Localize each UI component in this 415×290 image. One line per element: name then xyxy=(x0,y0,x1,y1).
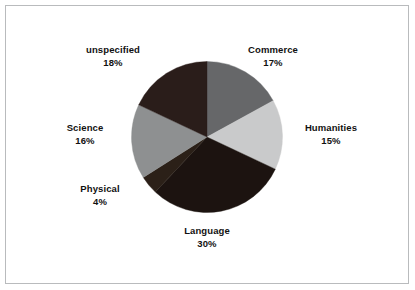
plot-area: unspecified 18% Commerce 17% Humanities … xyxy=(0,0,415,290)
slice-label-humanities-value: 15% xyxy=(272,135,390,148)
slice-label-unspecified-value: 18% xyxy=(58,57,168,70)
slice-label-science: Science 16% xyxy=(34,122,136,147)
slice-label-commerce-name: Commerce xyxy=(248,44,298,55)
slice-label-science-value: 16% xyxy=(34,135,136,148)
slice-label-physical-name: Physical xyxy=(80,183,119,194)
pie-slice-group xyxy=(132,62,283,213)
slice-label-language-name: Language xyxy=(184,225,230,236)
slice-label-humanities: Humanities 15% xyxy=(272,122,390,147)
slice-label-commerce-value: 17% xyxy=(218,57,328,70)
slice-label-unspecified-name: unspecified xyxy=(86,44,140,55)
slice-label-humanities-name: Humanities xyxy=(305,122,357,133)
slice-label-physical: Physical 4% xyxy=(48,183,152,208)
pie-chart-figure: unspecified 18% Commerce 17% Humanities … xyxy=(0,0,415,290)
slice-label-physical-value: 4% xyxy=(48,196,152,209)
slice-label-science-name: Science xyxy=(67,122,104,133)
slice-label-language-value: 30% xyxy=(152,238,262,251)
slice-label-unspecified: unspecified 18% xyxy=(58,44,168,69)
slice-label-language: Language 30% xyxy=(152,225,262,250)
pie-chart xyxy=(131,61,283,213)
slice-label-commerce: Commerce 17% xyxy=(218,44,328,69)
